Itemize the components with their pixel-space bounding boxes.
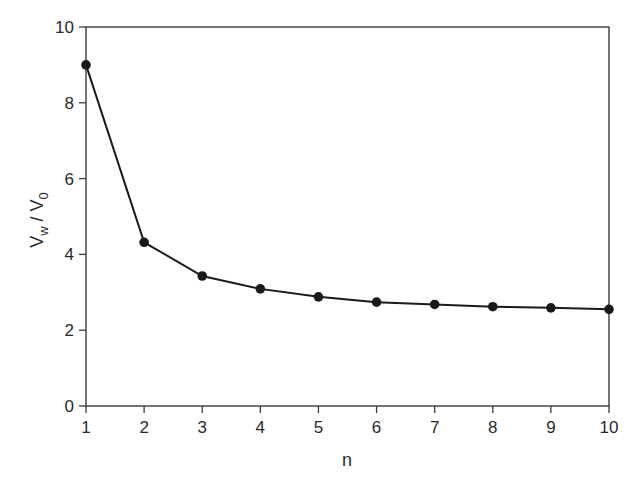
x-axis-ticks: 12345678910	[81, 406, 618, 437]
data-point-marker	[430, 300, 440, 310]
y-tick-label: 8	[65, 94, 74, 113]
y-axis-label: Vw / V0	[27, 192, 51, 248]
x-tick-label: 10	[600, 418, 619, 437]
data-point-marker	[314, 292, 324, 302]
y-tick-label: 4	[65, 245, 74, 264]
y-tick-label: 10	[55, 18, 74, 37]
data-point-marker	[488, 302, 498, 312]
y-label-sub-0: 0	[36, 192, 51, 199]
x-tick-label: 2	[139, 418, 148, 437]
data-point-marker	[546, 303, 556, 313]
data-series-markers	[81, 60, 614, 314]
x-tick-label: 5	[314, 418, 323, 437]
data-point-marker	[197, 271, 207, 281]
y-tick-label: 0	[65, 397, 74, 416]
data-series-line	[86, 65, 609, 309]
plot-frame	[86, 27, 609, 406]
x-tick-label: 1	[81, 418, 90, 437]
x-tick-label: 3	[197, 418, 206, 437]
line-chart: 0246810 12345678910 n Vw / V0	[0, 0, 639, 495]
y-label-sep: /	[27, 211, 47, 226]
y-tick-label: 2	[65, 321, 74, 340]
plot-area-border	[86, 27, 609, 406]
x-tick-label: 9	[546, 418, 555, 437]
data-point-marker	[139, 237, 149, 247]
data-point-marker	[256, 284, 266, 294]
series-polyline	[86, 65, 609, 309]
x-tick-label: 8	[488, 418, 497, 437]
x-axis-label: n	[342, 450, 352, 470]
data-point-marker	[372, 297, 382, 307]
data-point-marker	[81, 60, 91, 70]
x-tick-label: 6	[372, 418, 381, 437]
x-tick-label: 7	[430, 418, 439, 437]
y-label-sub-w: w	[36, 226, 51, 237]
y-axis-ticks: 0246810	[55, 18, 86, 416]
y-label-v0: V	[27, 199, 47, 211]
x-tick-label: 4	[256, 418, 265, 437]
data-point-marker	[604, 305, 614, 315]
y-label-v: V	[27, 236, 47, 248]
y-tick-label: 6	[65, 170, 74, 189]
